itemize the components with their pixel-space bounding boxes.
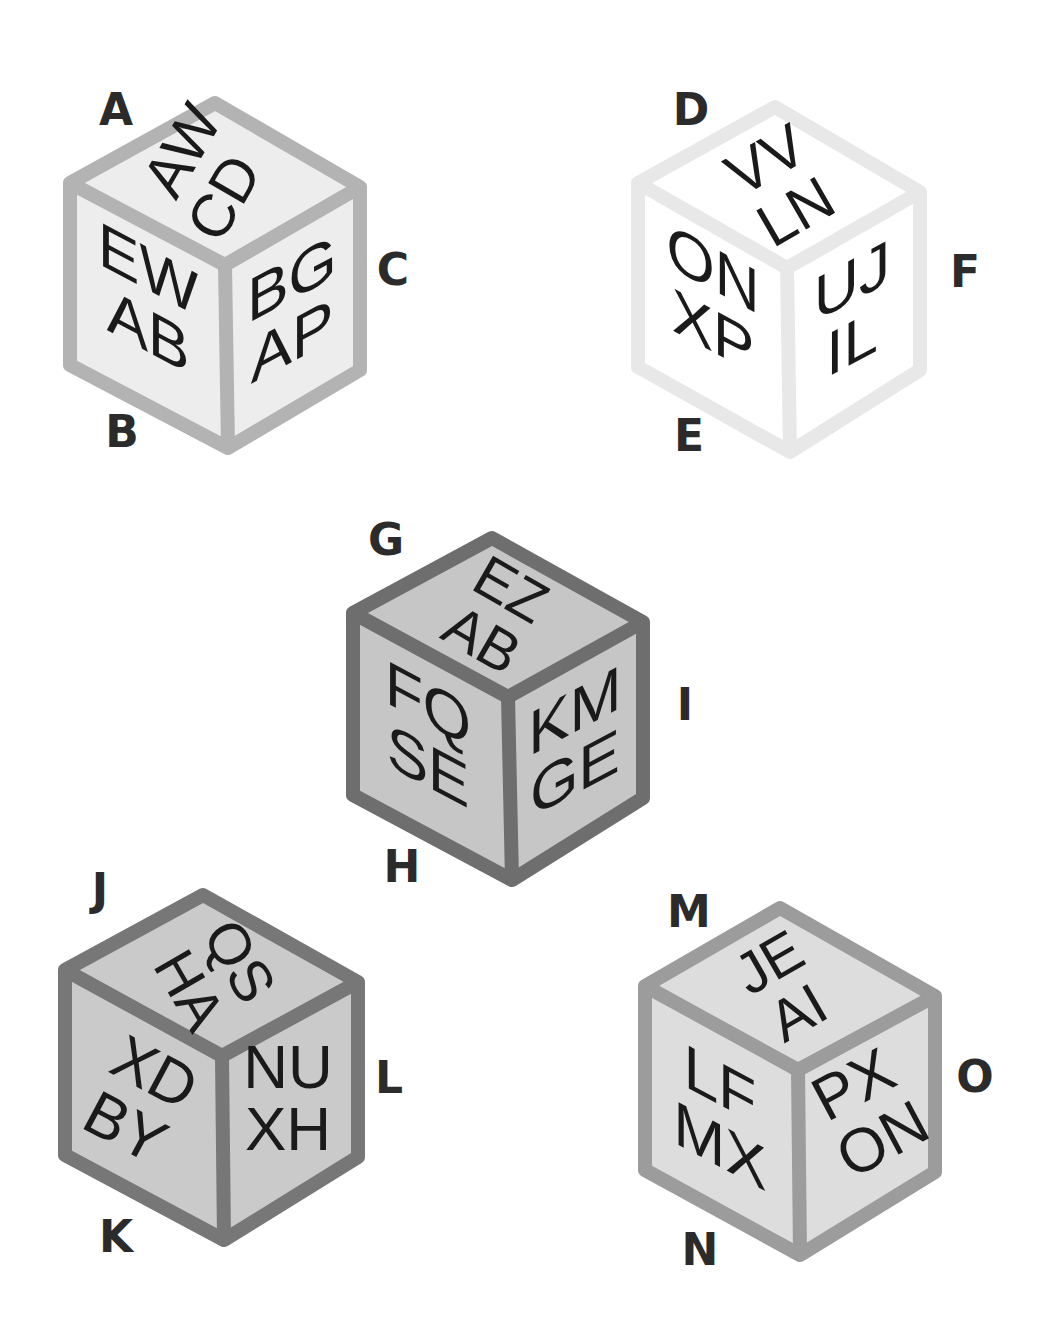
cube-5-center-edge	[798, 1070, 800, 1255]
cube-5-label-bottom-left: N	[682, 1228, 719, 1272]
cube-5-drawing: JE AI LF MX PX ON	[0, 0, 1056, 1334]
cube-5-label-right: O	[956, 1055, 993, 1099]
cube-5-label-top-left: M	[667, 890, 711, 934]
